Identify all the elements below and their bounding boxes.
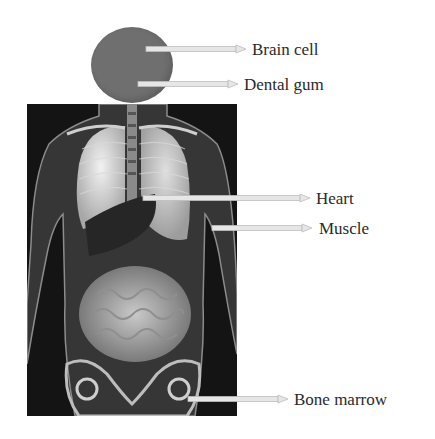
body-anatomy-image	[27, 104, 237, 416]
head-circle	[91, 27, 173, 103]
arrow-brain-cell	[146, 45, 246, 53]
arrow-muscle	[212, 224, 312, 232]
label-muscle: Muscle	[319, 220, 369, 237]
label-brain-cell: Brain cell	[252, 41, 319, 58]
torso-illustration	[27, 104, 237, 416]
arrow-dental-gum	[138, 80, 238, 88]
arrow-heart	[143, 194, 310, 202]
label-heart: Heart	[316, 190, 354, 207]
arrow-bone-marrow	[188, 395, 288, 403]
label-dental-gum: Dental gum	[244, 76, 324, 93]
label-bone-marrow: Bone marrow	[294, 391, 387, 408]
